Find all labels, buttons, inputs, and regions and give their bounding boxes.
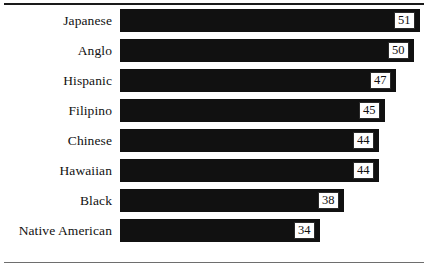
bar-chart-figure: Japanese51Anglo50Hispanic47Filipino45Chi… — [0, 0, 430, 270]
top-rule-divider — [4, 3, 424, 5]
bar-value-label: 50 — [388, 42, 409, 59]
bar-track: 51 — [120, 9, 430, 32]
bar-category-label: Japanese — [0, 9, 112, 32]
bar-fill — [120, 9, 420, 32]
bar-value-label: 44 — [353, 132, 374, 149]
bar-value-label: 44 — [353, 162, 374, 179]
chart-plot-area: Japanese51Anglo50Hispanic47Filipino45Chi… — [0, 9, 430, 257]
bar-fill — [120, 39, 414, 62]
bar-value-label: 45 — [359, 102, 380, 119]
bar-fill — [120, 159, 379, 182]
bottom-rule-divider — [4, 262, 424, 263]
bar-fill — [120, 189, 344, 212]
bar-category-label: Chinese — [0, 129, 112, 152]
bar-row: Hispanic47 — [0, 69, 430, 99]
bar-row: Chinese44 — [0, 129, 430, 159]
bar-track: 47 — [120, 69, 430, 92]
bar-fill — [120, 219, 320, 242]
bar-track: 44 — [120, 159, 430, 182]
bar-category-label: Native American — [0, 219, 112, 242]
bar-category-label: Hispanic — [0, 69, 112, 92]
bar-track: 38 — [120, 189, 430, 212]
bar-row: Anglo50 — [0, 39, 430, 69]
bar-fill — [120, 99, 385, 122]
bar-track: 50 — [120, 39, 430, 62]
bar-row: Japanese51 — [0, 9, 430, 39]
bar-value-label: 47 — [370, 72, 391, 89]
bar-value-label: 38 — [318, 192, 339, 209]
bar-value-label: 34 — [294, 222, 315, 239]
bar-category-label: Hawaiian — [0, 159, 112, 182]
bar-value-label: 51 — [394, 12, 415, 29]
bar-category-label: Anglo — [0, 39, 112, 62]
bar-row: Filipino45 — [0, 99, 430, 129]
bar-row: Native American34 — [0, 219, 430, 249]
bar-row: Hawaiian44 — [0, 159, 430, 189]
bar-fill — [120, 129, 379, 152]
bar-row: Black38 — [0, 189, 430, 219]
bar-category-label: Black — [0, 189, 112, 212]
bar-track: 34 — [120, 219, 430, 242]
bar-fill — [120, 69, 396, 92]
bar-category-label: Filipino — [0, 99, 112, 122]
bar-track: 44 — [120, 129, 430, 152]
bar-track: 45 — [120, 99, 430, 122]
